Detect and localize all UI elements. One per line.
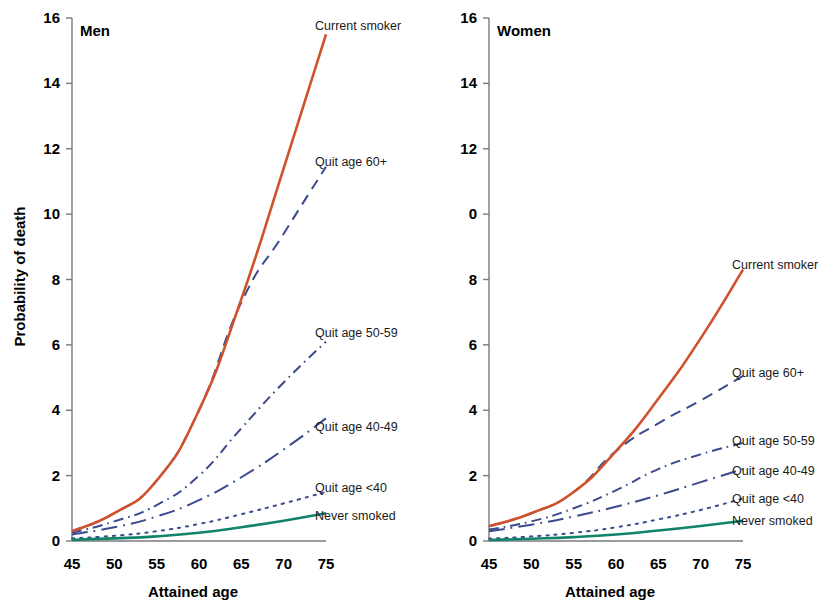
x-axis-tick-label: 50	[99, 555, 129, 572]
x-axis-title: Attained age	[475, 583, 745, 600]
series-line	[489, 443, 743, 530]
series-line	[72, 342, 326, 533]
figure-smoking-mortality: Probability of death Men Attained age 02…	[0, 0, 833, 610]
panel-title-men: Men	[80, 22, 110, 39]
x-axis-tick-label: 55	[142, 555, 172, 572]
series-line	[72, 34, 326, 531]
x-axis-tick-label: 75	[728, 555, 758, 572]
series-line	[489, 469, 743, 531]
y-axis-tick-label: 4	[443, 402, 477, 417]
series-label: Current smoker	[732, 258, 818, 272]
y-axis-tick-label: 0	[443, 206, 477, 221]
y-axis-tick-label: 10	[26, 206, 60, 221]
series-line	[489, 521, 743, 540]
series-line	[72, 167, 326, 531]
series-line	[72, 513, 326, 539]
y-axis-tick-label: 16	[26, 10, 60, 25]
panel-title-women: Women	[497, 22, 551, 39]
x-axis-tick-label: 45	[474, 555, 504, 572]
series-label: Quit age 50-59	[315, 326, 398, 340]
series-label: Quit age 50-59	[732, 434, 815, 448]
series-line	[489, 499, 743, 539]
panel-men: Probability of death Men Attained age 02…	[0, 0, 416, 610]
series-label: Quit age 40-49	[732, 464, 815, 478]
y-axis-tick-label: 2	[26, 468, 60, 483]
x-axis-tick-label: 65	[226, 555, 256, 572]
series-label: Never smoked	[732, 514, 813, 528]
y-axis-tick-label: 14	[26, 75, 60, 90]
x-axis-tick-label: 65	[643, 555, 673, 572]
y-axis-tick-label: 8	[26, 272, 60, 287]
series-label: Quit age <40	[315, 481, 387, 495]
y-axis-tick-label: 12	[26, 141, 60, 156]
series-label: Quit age 60+	[315, 155, 387, 169]
y-axis-tick-label: 0	[26, 533, 60, 548]
x-axis-title: Attained age	[58, 583, 328, 600]
x-axis-tick-label: 70	[686, 555, 716, 572]
y-axis-tick-label: 16	[443, 10, 477, 25]
y-axis-tick-label: 6	[26, 337, 60, 352]
x-axis-tick-label: 45	[57, 555, 87, 572]
x-axis-tick-label: 55	[559, 555, 589, 572]
y-axis-tick-label: 0	[443, 533, 477, 548]
y-axis-title: Probability of death	[11, 162, 28, 392]
series-label: Quit age 40-49	[315, 420, 398, 434]
y-axis-tick-label: 2	[443, 468, 477, 483]
x-axis-tick-label: 60	[184, 555, 214, 572]
y-axis-tick-label: 14	[443, 75, 477, 90]
series-label: Current smoker	[315, 19, 401, 33]
panel-women: Women Attained age 024680121416455055606…	[417, 0, 833, 610]
y-axis-tick-label: 12	[443, 141, 477, 156]
x-axis-tick-label: 70	[269, 555, 299, 572]
y-axis-tick-label: 4	[26, 402, 60, 417]
x-axis-tick-label: 50	[516, 555, 546, 572]
y-axis-tick-label: 8	[443, 272, 477, 287]
y-axis-tick-label: 6	[443, 337, 477, 352]
x-axis-tick-label: 75	[311, 555, 341, 572]
series-label: Quit age 60+	[732, 366, 804, 380]
x-axis-tick-label: 60	[601, 555, 631, 572]
series-label: Quit age <40	[732, 492, 804, 506]
series-label: Never smoked	[315, 509, 396, 523]
